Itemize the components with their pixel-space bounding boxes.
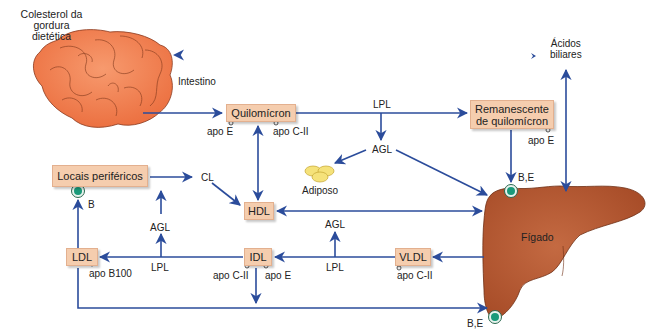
hdl-box: HDL <box>244 202 274 220</box>
apo-cii-chylomicron-label: apo C-II <box>273 126 309 137</box>
apo-e-chylomicron-label: apo E <box>207 126 233 137</box>
idl-box: IDL <box>244 248 272 266</box>
apo-cii-idl-label: apo C-II <box>213 270 249 281</box>
ldl-box: LDL <box>66 248 98 266</box>
peripheral-sites-box: Locais periféricos <box>52 165 148 187</box>
vldl-box: VLDL <box>395 248 431 266</box>
receptor-b-label: B <box>88 199 95 210</box>
adipose-cells-icon <box>305 166 334 182</box>
apo-cii-vldl-label: apo C-II <box>397 270 433 281</box>
adipose-label: Adiposo <box>302 185 338 196</box>
lpl-left-label: LPL <box>151 262 169 273</box>
receptor-be-bottom-label: B,E <box>467 318 483 329</box>
bile-acids-label: Ácidos biliares <box>550 38 582 60</box>
intestine-label: Intestino <box>178 76 216 87</box>
receptor-be-top-label: B,E <box>518 172 534 183</box>
agl-left-label: AGL <box>150 222 170 233</box>
apo-b100-label: apo B100 <box>89 268 132 279</box>
apo-e-idl-label: apo E <box>265 270 291 281</box>
chylomicron-remnant-box: Remanescente de quilomícron <box>470 100 554 129</box>
lpl-mid-label: LPL <box>326 262 344 273</box>
liver-illustration <box>483 186 645 320</box>
receptor-icons <box>72 185 518 324</box>
dietary-cholesterol-label: Colesterol da gordura dietética <box>14 9 89 42</box>
cl-label: CL <box>201 172 214 183</box>
agl-top-label: AGL <box>372 144 392 155</box>
liver-label: Fígado <box>521 232 554 243</box>
agl-mid-label: AGL <box>325 219 345 230</box>
apo-e-remnant-label: apo E <box>528 135 554 146</box>
chylomicron-box: Quilomícron <box>226 104 296 122</box>
lpl-top-label: LPL <box>373 99 391 110</box>
